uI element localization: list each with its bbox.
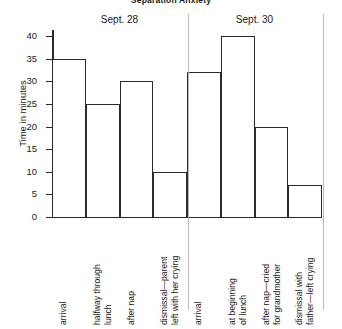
y-tick-0: 0 xyxy=(46,217,52,218)
category-label: halfway through lunch xyxy=(92,221,113,325)
x-axis-category-labels: arrivalhalfway through lunchafter napdis… xyxy=(52,221,322,329)
y-tick-label-10: 10 xyxy=(26,171,37,172)
bar xyxy=(288,185,322,217)
bar xyxy=(221,36,255,217)
chart-title: Separation Anxiety xyxy=(0,0,342,5)
category-label: at beginning of lunch xyxy=(227,221,248,325)
y-tick-label-0: 0 xyxy=(32,216,37,217)
bar xyxy=(153,172,187,217)
bar xyxy=(52,59,86,217)
bar xyxy=(187,72,221,217)
y-tick-label-30: 30 xyxy=(26,80,37,81)
category-label: dismissal with father—left crying xyxy=(294,221,315,325)
y-tick-40: 40 xyxy=(46,36,52,37)
category-label: after nap—cried for grandmother xyxy=(261,221,282,325)
y-tick-label-25: 25 xyxy=(26,103,37,104)
category-label: arrival xyxy=(58,221,69,325)
y-tick-label-15: 15 xyxy=(26,148,37,149)
y-tick-label-20: 20 xyxy=(26,126,37,127)
bar xyxy=(86,104,120,217)
bar xyxy=(255,127,289,218)
category-label: arrival xyxy=(193,221,204,325)
chart-container: Separation Anxiety Time in minutes 40353… xyxy=(0,0,342,329)
y-tick-label-35: 35 xyxy=(26,58,37,59)
group-header-label: Sept. 30 xyxy=(187,14,322,25)
category-label: after nap xyxy=(126,221,137,325)
y-tick-label-40: 40 xyxy=(26,35,37,36)
group-divider xyxy=(323,14,324,310)
category-label: dismissal—parent left with her crying xyxy=(159,221,180,325)
y-tick-label-5: 5 xyxy=(32,193,37,194)
bar xyxy=(120,81,154,217)
group-header-label: Sept. 28 xyxy=(52,14,187,25)
